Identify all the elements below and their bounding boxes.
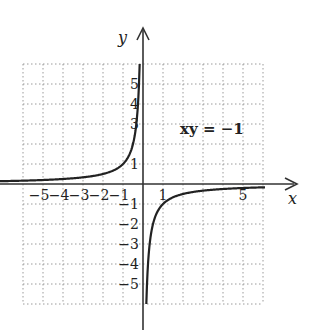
plot-area: −5−4−3−2−1155431−1−2−3−4−5 y x xy = −1 (0, 0, 318, 332)
y-tick-label: 1 (130, 156, 139, 172)
x-tick-label: −2 (89, 187, 110, 203)
y-tick-label: −5 (118, 276, 139, 292)
y-tick-label: 5 (130, 76, 139, 92)
x-tick-label: −5 (29, 187, 50, 203)
left-branch-curve (0, 64, 140, 181)
x-tick-label: 1 (159, 187, 168, 203)
y-tick-label: −2 (118, 216, 139, 232)
y-tick-label: −3 (118, 236, 139, 252)
equation-label: xy = −1 (180, 120, 244, 138)
right-branch-curve (146, 187, 265, 304)
x-tick-label: 5 (239, 187, 248, 203)
x-tick-label: −4 (49, 187, 70, 203)
y-axis-label: y (117, 28, 128, 47)
hyperbola-graph: −5−4−3−2−1155431−1−2−3−4−5 y x xy = −1 (0, 0, 318, 332)
x-axis-label: x (288, 189, 297, 208)
x-tick-label: −3 (69, 187, 90, 203)
y-tick-label: 3 (130, 116, 139, 132)
y-tick-label: −4 (118, 256, 139, 272)
y-tick-label: 4 (130, 96, 139, 112)
y-tick-label: −1 (118, 196, 139, 212)
